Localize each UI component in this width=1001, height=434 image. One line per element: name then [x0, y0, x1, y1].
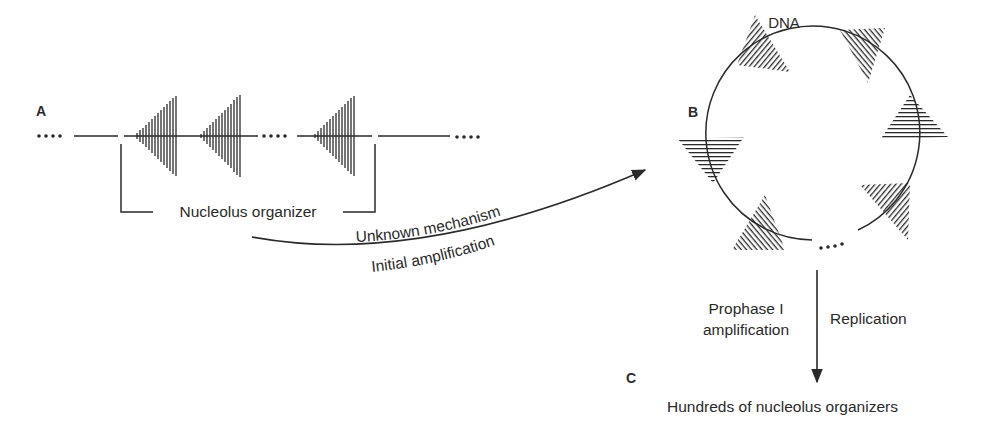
panel-b-label: B — [688, 104, 698, 120]
panel-c: C Hundreds of nucleolus organizers — [626, 370, 898, 415]
ellipsis-middle — [262, 134, 287, 138]
panel-a: A — [36, 95, 480, 220]
replication-label: Replication — [830, 310, 907, 327]
gene-triangle-b4 — [860, 183, 910, 240]
nucleolus-organizer-label: Nucleolus organizer — [180, 203, 317, 220]
ellipsis-right — [455, 135, 480, 139]
prophase-label: Prophase I — [709, 300, 784, 317]
bracket-left — [121, 144, 153, 212]
gene-triangle-b5 — [732, 195, 785, 250]
arrow-b-to-c: Prophase I amplification Replication — [703, 270, 907, 382]
amplification-label: amplification — [703, 321, 789, 338]
dna-label: DNA — [768, 14, 800, 31]
panel-c-label: C — [626, 370, 636, 386]
ellipsis-left — [37, 134, 62, 138]
gene-triangle-b3 — [880, 95, 948, 140]
arrow-a-to-b: Unknown mechanism Initial amplification — [252, 170, 645, 275]
gene-triangle-b2 — [840, 28, 885, 83]
circle-ellipsis — [819, 242, 844, 250]
panel-b: B DNA — [678, 14, 948, 250]
gene-triangle-b6 — [678, 137, 744, 183]
hundreds-label: Hundreds of nucleolus organizers — [667, 398, 898, 415]
diagram-canvas: A — [0, 0, 1001, 434]
panel-a-label: A — [36, 103, 46, 119]
